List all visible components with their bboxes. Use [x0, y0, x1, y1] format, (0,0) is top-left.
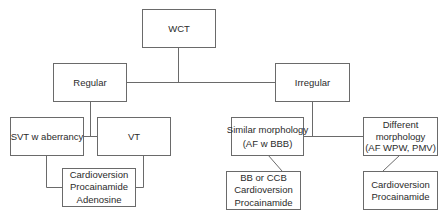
node-label: SVT w aberrancy [11, 130, 84, 144]
node-label: Irregular [295, 76, 330, 90]
node-vt: VT [97, 117, 171, 156]
node-different-treatment: Cardioversion Procainamide [363, 171, 438, 210]
treatment-item: Cardioversion [371, 179, 430, 191]
node-wct: WCT [142, 9, 216, 48]
node-label: VT [128, 130, 140, 144]
treatment-item: Procainamide [234, 197, 292, 210]
treatment-item: Procainamide [371, 191, 429, 203]
node-svt-aberrancy: SVT w aberrancy [10, 117, 84, 156]
node-label-line: (AF w BBB) [243, 137, 293, 151]
node-similar-treatment: BB or CCB Cardioversion Procainamide [226, 171, 301, 210]
treatment-item: BB or CCB [240, 172, 286, 185]
node-irregular: Irregular [275, 63, 350, 102]
treatment-item: Adenosine [77, 194, 122, 207]
node-regular: Regular [53, 63, 127, 102]
node-different-morphology: Different morphology (AF WPW, PMV) [363, 117, 438, 156]
treatment-item: Cardioversion [234, 184, 293, 197]
node-label-line: Different [383, 119, 419, 131]
node-regular-treatment: Cardioversion Procainamide Adenosine [62, 168, 136, 207]
node-label-line: (AF WPW, PMV) [365, 142, 436, 154]
node-similar-morphology: Similar morphology (AF w BBB) [231, 117, 304, 156]
node-label-line: Similar morphology [227, 123, 308, 137]
node-label: WCT [168, 22, 190, 36]
treatment-item: Cardioversion [70, 169, 129, 182]
treatment-item: Procainamide [70, 181, 128, 194]
node-label: Regular [73, 76, 106, 90]
node-label-line: morphology [376, 131, 426, 143]
